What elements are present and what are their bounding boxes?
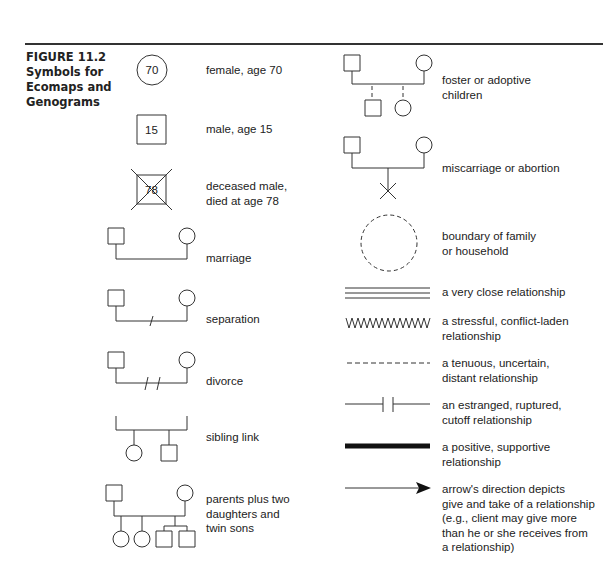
label-family-line3: twin sons xyxy=(206,521,290,536)
label-sibling: sibling link xyxy=(206,430,259,445)
arrow-line-icon xyxy=(345,482,431,494)
label-stressful-line1: a stressful, conflict-laden xyxy=(442,314,569,329)
deceased-age: 78 xyxy=(145,184,158,196)
label-positive-line1: a positive, supportive xyxy=(442,440,550,455)
label-boundary-line1: boundary of family xyxy=(442,229,536,244)
stressful-zigzag-icon xyxy=(346,318,430,328)
label-deceased-line2: died at age 78 xyxy=(206,194,287,209)
label-positive: a positive, supportive relationship xyxy=(442,440,550,469)
label-boundary: boundary of family or household xyxy=(442,229,536,258)
label-arrow-line2: give and take of a relationship xyxy=(442,497,595,512)
male-age: 15 xyxy=(145,124,158,136)
foster-children-icon xyxy=(344,55,432,116)
label-family-line2: daughters and xyxy=(206,507,290,522)
label-arrow-line4: than he or she receives from xyxy=(442,526,595,541)
female-age: 70 xyxy=(146,64,159,76)
deceased-male-icon: 78 xyxy=(131,169,172,210)
label-tenuous: a tenuous, uncertain, distant relationsh… xyxy=(442,356,549,385)
very-close-line-icon xyxy=(345,288,430,298)
label-tenuous-line2: distant relationship xyxy=(442,371,549,386)
female-circle-icon: 70 xyxy=(137,55,167,85)
label-deceased-line1: deceased male, xyxy=(206,179,287,194)
label-family: parents plus two daughters and twin sons xyxy=(206,492,290,536)
label-separation: separation xyxy=(206,312,260,327)
label-estranged: an estranged, ruptured, cutoff relations… xyxy=(442,398,562,427)
label-divorce: divorce xyxy=(206,374,243,389)
separation-icon xyxy=(108,290,195,326)
label-estranged-line1: an estranged, ruptured, xyxy=(442,398,562,413)
label-male: male, age 15 xyxy=(206,122,273,137)
estranged-broken-line-icon xyxy=(345,397,430,412)
label-family-line1: parents plus two xyxy=(206,492,290,507)
divorce-icon xyxy=(108,352,195,390)
family-with-twins-icon xyxy=(106,485,195,547)
label-arrow-line1: arrow's direction depicts xyxy=(442,482,595,497)
male-square-icon: 15 xyxy=(137,115,166,144)
label-arrow-line3: (e.g., client may give more xyxy=(442,511,595,526)
label-arrow-line5: a relationship) xyxy=(442,540,595,555)
sibling-link-icon xyxy=(116,416,187,461)
miscarriage-icon xyxy=(344,137,432,199)
label-positive-line2: relationship xyxy=(442,455,550,470)
label-stressful: a stressful, conflict-laden relationship xyxy=(442,314,569,343)
label-tenuous-line1: a tenuous, uncertain, xyxy=(442,356,549,371)
label-marriage: marriage xyxy=(206,251,251,266)
label-foster: foster or adoptive children xyxy=(442,73,531,102)
label-miscarriage: miscarriage or abortion xyxy=(442,161,560,176)
label-stressful-line2: relationship xyxy=(442,329,569,344)
label-deceased: deceased male, died at age 78 xyxy=(206,179,287,208)
label-female: female, age 70 xyxy=(206,63,282,78)
marriage-icon xyxy=(108,228,195,259)
household-boundary-icon xyxy=(361,215,417,271)
label-foster-line1: foster or adoptive xyxy=(442,73,531,88)
label-foster-line2: children xyxy=(442,88,531,103)
label-boundary-line2: or household xyxy=(442,244,536,259)
label-estranged-line2: cutoff relationship xyxy=(442,413,562,428)
label-very-close: a very close relationship xyxy=(442,285,565,300)
label-arrow: arrow's direction depicts give and take … xyxy=(442,482,595,555)
